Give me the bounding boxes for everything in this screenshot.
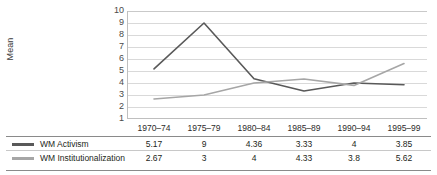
y-axis-ticks: 10 9 8 7 6 5 4 3 2 1 <box>104 0 124 128</box>
value-activism-0: 5.17 <box>129 138 179 150</box>
y-tick-3: 3 <box>106 90 124 99</box>
x-axis-labels: 1970–74 1975–79 1980–84 1985–89 1990–94 … <box>0 122 437 136</box>
y-tick-10: 10 <box>106 6 124 15</box>
value-activism-2: 4.36 <box>229 138 279 150</box>
value-inst-2: 4 <box>229 152 279 164</box>
line-wm-institutionalization <box>154 64 404 99</box>
value-activism-1: 9 <box>179 138 229 150</box>
value-inst-0: 2.67 <box>129 152 179 164</box>
y-tick-8: 8 <box>106 30 124 39</box>
y-axis-title: Mean <box>5 26 15 72</box>
data-table: 1970–74 1975–79 1980–84 1985–89 1990–94 … <box>0 120 437 175</box>
value-inst-4: 3.8 <box>329 152 379 164</box>
x-label-5: 1995–99 <box>379 122 429 134</box>
x-label-4: 1990–94 <box>329 122 379 134</box>
value-activism-4: 4 <box>329 138 379 150</box>
value-activism-3: 3.33 <box>279 138 329 150</box>
y-tick-5: 5 <box>106 66 124 75</box>
table-rule-bottom <box>6 170 431 171</box>
x-label-3: 1985–89 <box>279 122 329 134</box>
value-activism-5: 3.85 <box>379 138 429 150</box>
table-row-wm-activism: 5.17 9 4.36 3.33 4 3.85 <box>0 138 437 152</box>
table-row-wm-institutionalization: 2.67 3 4 4.33 3.8 5.62 <box>0 152 437 166</box>
value-inst-5: 5.62 <box>379 152 429 164</box>
series-lines <box>127 0 427 128</box>
x-label-1: 1975–79 <box>179 122 229 134</box>
x-label-2: 1980–84 <box>229 122 279 134</box>
y-tick-6: 6 <box>106 54 124 63</box>
plot-area: Mean 10 9 8 7 6 5 4 3 2 1 <box>0 0 437 128</box>
value-inst-1: 3 <box>179 152 229 164</box>
x-label-0: 1970–74 <box>129 122 179 134</box>
value-inst-3: 4.33 <box>279 152 329 164</box>
y-tick-7: 7 <box>106 42 124 51</box>
table-rule-top <box>6 136 431 137</box>
chart-figure: Mean 10 9 8 7 6 5 4 3 2 1 <box>0 0 437 175</box>
y-tick-4: 4 <box>106 78 124 87</box>
y-tick-2: 2 <box>106 102 124 111</box>
y-tick-9: 9 <box>106 18 124 27</box>
